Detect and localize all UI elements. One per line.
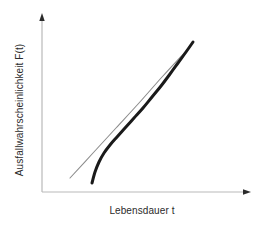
series-reference-straight-line	[70, 52, 185, 178]
x-axis-label: Lebensdauer t	[42, 205, 242, 216]
y-axis-label: Ausfallwahrscheinlichkeit F(t)	[14, 20, 27, 200]
plot-area	[0, 0, 260, 227]
x-axis-arrow-icon	[243, 189, 251, 194]
y-axis-arrow-icon	[39, 13, 44, 21]
data-series-layer	[70, 42, 193, 183]
series-curved-failure-probability	[92, 42, 193, 183]
chart-figure: Ausfallwahrscheinlichkeit F(t) Lebensdau…	[0, 0, 260, 227]
